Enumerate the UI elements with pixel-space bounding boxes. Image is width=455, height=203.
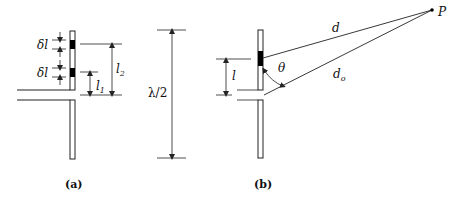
panel-b-caption: (b) (254, 178, 272, 191)
d-label: d (332, 21, 340, 35)
distance-do-line (264, 10, 432, 95)
current-element-upper (70, 40, 75, 49)
delta-l-label-lower: δl (37, 66, 48, 80)
half-wavelength-dimension: λ/2 (148, 30, 186, 158)
dipole-antenna-figure: δl δl l1 l2 (a) λ/2 (0, 0, 455, 203)
diagram-svg: δl δl l1 l2 (a) λ/2 (0, 0, 455, 203)
delta-l-upper-annotation: δl (37, 32, 66, 57)
panel-a-caption: (a) (65, 178, 83, 191)
point-p-label: P (437, 5, 447, 19)
theta-label: θ (278, 61, 286, 75)
current-element-b (258, 51, 263, 66)
l2-label: l2 (116, 62, 125, 78)
distance-d-line (263, 10, 432, 58)
panel-a: δl δl l1 l2 (a) (17, 31, 125, 191)
lower-dipole-arm-b (258, 100, 263, 158)
delta-l-lower-annotation: δl (37, 60, 66, 85)
point-p-marker (430, 8, 434, 12)
half-wavelength-label: λ/2 (148, 86, 167, 100)
l1-label: l1 (96, 79, 105, 95)
panel-b: l P θ d do (b) (216, 5, 447, 191)
do-label: do (333, 67, 346, 83)
l-label: l (232, 69, 236, 83)
lower-dipole-arm (70, 100, 75, 159)
upper-dipole-arm (70, 31, 75, 90)
delta-l-label-upper: δl (37, 38, 48, 52)
current-element-lower (70, 68, 75, 77)
